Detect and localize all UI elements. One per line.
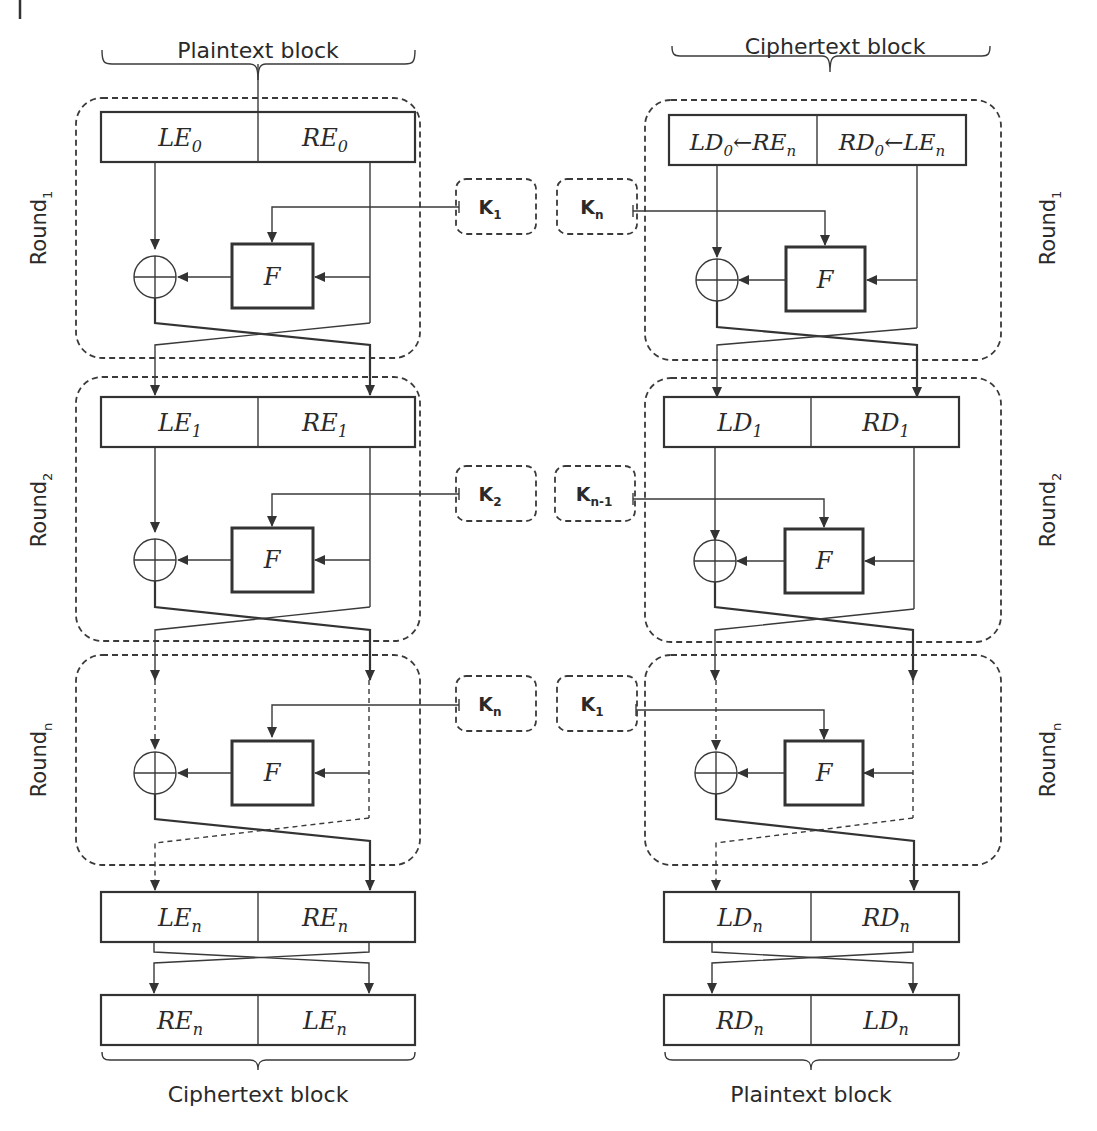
svg-text:K1: K1 — [580, 693, 603, 719]
xor-icon — [696, 259, 738, 301]
xor-icon — [695, 752, 737, 794]
svg-text:Kn-1: Kn-1 — [576, 483, 613, 509]
f-label: F — [815, 759, 834, 787]
key-schedule: K1 Kn K2 Kn-1 Kn K1 — [456, 179, 637, 731]
key-box-Kn-dec — [557, 179, 637, 234]
xor-icon — [134, 256, 176, 298]
f-label: F — [263, 759, 282, 787]
key-box-Kn-enc — [456, 676, 536, 731]
plaintext-block-label: Plaintext block — [177, 38, 339, 63]
round-n-label-dec: Roundn — [1036, 723, 1064, 798]
key-box-Kn-1-dec — [555, 466, 635, 521]
f-label: F — [815, 547, 834, 575]
feistel-diagram: Plaintext block Round1 LE0 RE0 F Round2 … — [0, 0, 1097, 1131]
f-label: F — [263, 263, 282, 291]
ciphertext-brace — [102, 1052, 415, 1070]
xor-icon — [134, 752, 176, 794]
encryption-column: Plaintext block Round1 LE0 RE0 F Round2 … — [27, 38, 459, 1107]
key-box-K1-enc — [456, 179, 536, 234]
xor-icon — [694, 540, 736, 582]
svg-text:K1: K1 — [478, 196, 501, 222]
round-1-label: Round1 — [27, 191, 55, 266]
decryption-column: Ciphertext block Round1 LD0←REn RD0←LEn … — [633, 34, 1064, 1107]
round-2-label: Round2 — [27, 473, 55, 548]
f-label: F — [816, 266, 835, 294]
round-2-label-dec: Round2 — [1036, 473, 1064, 548]
plaintext-block-label-bottom: Plaintext block — [730, 1082, 892, 1107]
round-1-label-dec: Round1 — [1036, 191, 1064, 266]
xor-icon — [134, 539, 176, 581]
ciphertext-block-label-top: Ciphertext block — [745, 34, 926, 59]
svg-text:Kn: Kn — [478, 693, 501, 719]
plaintext-brace-bottom — [665, 1052, 959, 1070]
svg-text:Kn: Kn — [580, 196, 603, 222]
ciphertext-block-label: Ciphertext block — [168, 1082, 349, 1107]
key-box-K1-dec — [557, 676, 637, 731]
svg-text:K2: K2 — [478, 483, 501, 509]
key-box-K2-enc — [456, 466, 536, 521]
f-label: F — [263, 546, 282, 574]
round-n-label: Roundn — [27, 723, 55, 798]
